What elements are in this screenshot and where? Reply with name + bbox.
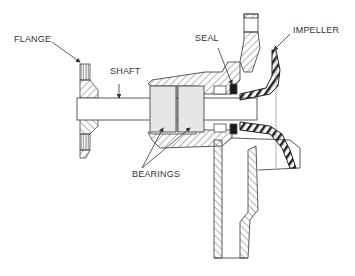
impeller-leader [274, 34, 290, 50]
flange-leader [52, 42, 80, 62]
label-seal: SEAL [195, 34, 219, 43]
label-bearings: BEARINGS [132, 170, 180, 179]
label-flange: FLANGE [14, 35, 51, 44]
label-shaft: SHAFT [110, 67, 141, 76]
water-pump-diagram: FLANGE SHAFT SEAL IMPELLER BEARINGS [0, 0, 355, 276]
label-impeller: IMPELLER [293, 26, 339, 35]
bearings [150, 86, 204, 132]
